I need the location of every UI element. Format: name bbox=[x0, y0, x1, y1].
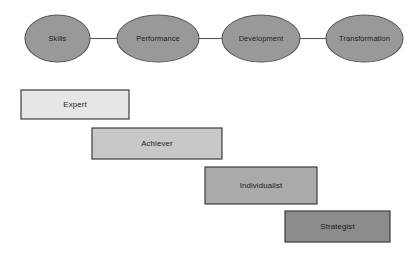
stage-label-expert: Expert bbox=[63, 100, 87, 109]
stage-box-achiever[interactable]: Achiever bbox=[92, 128, 222, 159]
flow-node-performance[interactable]: Performance bbox=[117, 15, 199, 62]
flow-node-label-transformation: Transformation bbox=[339, 34, 390, 43]
flow-node-skills[interactable]: Skills bbox=[25, 15, 90, 62]
stage-box-expert[interactable]: Expert bbox=[21, 90, 129, 119]
diagram-svg: Skills Performance Development Transform… bbox=[0, 0, 415, 258]
stage-label-achiever: Achiever bbox=[141, 139, 173, 148]
flow-node-development[interactable]: Development bbox=[222, 15, 300, 62]
diagram-canvas: Skills Performance Development Transform… bbox=[0, 0, 415, 258]
flow-node-transformation[interactable]: Transformation bbox=[326, 15, 403, 62]
flow-node-label-skills: Skills bbox=[49, 34, 67, 43]
stage-box-individualist[interactable]: Individualist bbox=[205, 167, 317, 204]
stage-box-strategist[interactable]: Strategist bbox=[285, 211, 390, 242]
flow-node-label-development: Development bbox=[239, 34, 284, 43]
stage-label-strategist: Strategist bbox=[320, 222, 355, 231]
stage-label-individualist: Individualist bbox=[240, 181, 283, 190]
flow-node-label-performance: Performance bbox=[136, 34, 179, 43]
